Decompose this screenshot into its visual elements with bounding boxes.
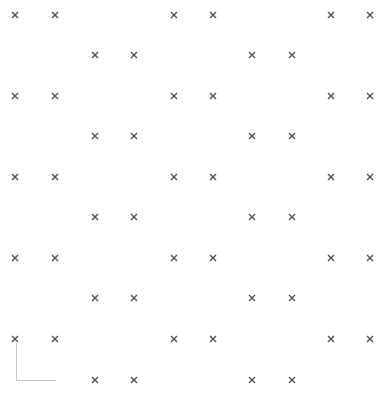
cross-mark[interactable] (363, 8, 377, 22)
cross-icon (288, 213, 296, 221)
cross-icon (170, 11, 178, 19)
cross-mark[interactable] (167, 89, 181, 103)
cross-icon (170, 173, 178, 181)
cross-mark[interactable] (8, 170, 22, 184)
cross-mark[interactable] (48, 170, 62, 184)
cross-mark[interactable] (324, 89, 338, 103)
cross-icon (130, 213, 138, 221)
cross-icon (366, 254, 374, 262)
cross-mark[interactable] (88, 129, 102, 143)
cross-mark[interactable] (363, 332, 377, 346)
cross-icon (248, 213, 256, 221)
cross-icon (130, 132, 138, 140)
cross-mark[interactable] (167, 170, 181, 184)
cross-mark[interactable] (88, 373, 102, 387)
cross-mark[interactable] (245, 373, 259, 387)
cross-mark[interactable] (127, 291, 141, 305)
corner-marker-horizontal (16, 380, 56, 381)
cross-mark[interactable] (324, 251, 338, 265)
cross-mark[interactable] (88, 210, 102, 224)
cross-icon (248, 132, 256, 140)
cross-icon (209, 254, 217, 262)
cross-icon (51, 92, 59, 100)
cross-icon (130, 376, 138, 384)
cross-mark[interactable] (285, 129, 299, 143)
cross-icon (327, 92, 335, 100)
cross-mark[interactable] (285, 373, 299, 387)
cross-icon (11, 254, 19, 262)
cross-mark[interactable] (48, 89, 62, 103)
cross-icon (130, 294, 138, 302)
cross-mark[interactable] (127, 373, 141, 387)
cross-icon (366, 92, 374, 100)
cross-mark[interactable] (8, 8, 22, 22)
cross-icon (51, 11, 59, 19)
cross-icon (288, 51, 296, 59)
cross-mark[interactable] (245, 291, 259, 305)
cross-icon (209, 92, 217, 100)
cross-mark[interactable] (48, 332, 62, 346)
cross-mark[interactable] (363, 89, 377, 103)
cross-icon (51, 173, 59, 181)
cross-mark[interactable] (127, 129, 141, 143)
cross-mark[interactable] (206, 332, 220, 346)
cross-mark[interactable] (167, 332, 181, 346)
cross-icon (130, 51, 138, 59)
cross-mark[interactable] (363, 170, 377, 184)
cross-icon (288, 294, 296, 302)
cross-mark[interactable] (8, 251, 22, 265)
cross-icon (248, 294, 256, 302)
cross-icon (327, 335, 335, 343)
cross-icon (209, 173, 217, 181)
cross-mark[interactable] (127, 48, 141, 62)
cross-icon (327, 173, 335, 181)
cross-mark[interactable] (324, 332, 338, 346)
cross-mark[interactable] (245, 129, 259, 143)
cross-mark[interactable] (167, 8, 181, 22)
cross-icon (209, 335, 217, 343)
cross-mark[interactable] (285, 291, 299, 305)
cross-mark[interactable] (324, 8, 338, 22)
cross-icon (366, 11, 374, 19)
cross-icon (248, 51, 256, 59)
cross-icon (248, 376, 256, 384)
cross-icon (11, 11, 19, 19)
cross-mark[interactable] (285, 48, 299, 62)
cross-icon (91, 51, 99, 59)
cross-mark[interactable] (127, 210, 141, 224)
cross-icon (51, 335, 59, 343)
cross-icon (51, 254, 59, 262)
cross-mark[interactable] (206, 251, 220, 265)
cross-icon (11, 335, 19, 343)
cross-icon (327, 11, 335, 19)
cross-mark[interactable] (206, 8, 220, 22)
cross-icon (170, 92, 178, 100)
cross-icon (11, 92, 19, 100)
cross-icon (209, 11, 217, 19)
cross-icon (366, 173, 374, 181)
cross-icon (170, 254, 178, 262)
cross-pattern-canvas (0, 0, 389, 396)
cross-icon (327, 254, 335, 262)
cross-icon (288, 376, 296, 384)
cross-mark[interactable] (206, 170, 220, 184)
cross-icon (91, 132, 99, 140)
cross-mark[interactable] (167, 251, 181, 265)
cross-icon (91, 213, 99, 221)
cross-mark[interactable] (245, 210, 259, 224)
cross-mark[interactable] (245, 48, 259, 62)
cross-mark[interactable] (324, 170, 338, 184)
cross-icon (288, 132, 296, 140)
cross-mark[interactable] (48, 251, 62, 265)
cross-mark[interactable] (8, 89, 22, 103)
cross-mark[interactable] (8, 332, 22, 346)
cross-mark[interactable] (88, 291, 102, 305)
corner-marker-vertical (16, 343, 17, 381)
cross-mark[interactable] (285, 210, 299, 224)
cross-mark[interactable] (206, 89, 220, 103)
cross-icon (366, 335, 374, 343)
cross-mark[interactable] (48, 8, 62, 22)
cross-mark[interactable] (363, 251, 377, 265)
cross-mark[interactable] (88, 48, 102, 62)
cross-icon (170, 335, 178, 343)
